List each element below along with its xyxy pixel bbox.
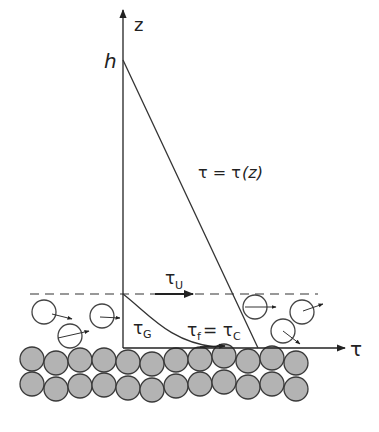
profile-equation-rhs: (z) [242, 163, 263, 182]
upper-stress-subscript: U [175, 279, 183, 292]
diagram-canvas: z h τ τ = τ (z) τ U τ G τ f = τ C [0, 0, 379, 432]
granular-bed [20, 344, 308, 402]
saltating-particles [32, 295, 314, 348]
fluid-stress-subscript: f [197, 330, 202, 343]
height-label: h [104, 49, 117, 73]
critical-stress-subscript: C [233, 330, 241, 343]
critical-stress-equation: = τ [203, 320, 233, 340]
fluid-stress-label: τ [187, 320, 197, 340]
profile-equation-lhs: τ = τ [198, 163, 241, 182]
upper-stress-label: τ [165, 268, 175, 288]
z-axis-label: z [134, 14, 143, 35]
stress-profile-line [123, 60, 258, 348]
grain-stress-label: τ [133, 318, 143, 338]
grain-stress-subscript: G [143, 328, 152, 341]
tau-axis-label: τ [350, 337, 362, 361]
